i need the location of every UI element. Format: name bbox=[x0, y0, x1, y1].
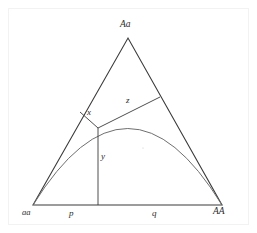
vertex-label-aa-homozygote-recessive: aa bbox=[22, 208, 31, 217]
vertex-label-aa-heterozygote: Aa bbox=[120, 20, 131, 30]
de-finetti-diagram-figure: Aa aa AA p q x y z bbox=[0, 0, 257, 233]
ternary-triangle-outline bbox=[33, 38, 222, 205]
base-segment-label-q: q bbox=[152, 209, 157, 218]
hardy-weinberg-parabola bbox=[33, 129, 222, 206]
segment-label-y: y bbox=[101, 152, 105, 161]
vertex-label-AA-homozygote-dominant: AA bbox=[213, 207, 225, 217]
segment-label-z: z bbox=[126, 96, 130, 105]
segment-label-x: x bbox=[87, 108, 91, 117]
diagram-canvas bbox=[0, 0, 257, 233]
base-segment-label-p: p bbox=[69, 209, 74, 218]
interior-stray-mark bbox=[142, 147, 143, 148]
